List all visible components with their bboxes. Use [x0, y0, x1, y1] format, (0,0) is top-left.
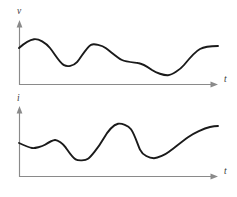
current-x-axis-arrowhead	[211, 174, 219, 180]
voltage-y-axis-label: v	[17, 6, 22, 16]
waveform-canvas: v t i t	[0, 0, 237, 197]
current-plot: i t	[17, 93, 227, 180]
voltage-x-axis-arrowhead	[211, 82, 219, 88]
current-y-axis-label: i	[17, 93, 20, 103]
voltage-plot: v t	[17, 6, 227, 87]
current-x-axis-label: t	[224, 166, 227, 176]
voltage-waveform-curve	[19, 39, 218, 75]
voltage-y-axis-arrowhead	[17, 20, 23, 28]
voltage-x-axis-label: t	[224, 74, 227, 84]
waveform-figure: v t i t	[0, 0, 237, 197]
current-waveform-curve	[19, 124, 218, 161]
current-y-axis-arrowhead	[17, 106, 23, 114]
